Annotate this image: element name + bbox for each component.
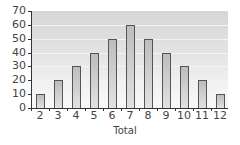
y-tick-label: 70 (0, 5, 26, 17)
x-tick-label: 8 (138, 110, 158, 122)
bar-9 (162, 53, 171, 109)
bar-12 (216, 94, 225, 109)
y-tick (28, 25, 31, 26)
x-tick-label: 5 (84, 110, 104, 122)
y-tick (28, 53, 31, 54)
x-tick-label: 11 (192, 110, 212, 122)
bar-chart: 010203040506070 23456789101112 Total (0, 0, 240, 145)
bar-8 (144, 39, 153, 109)
y-tick-label: 20 (0, 74, 26, 86)
x-tick-label: 4 (66, 110, 86, 122)
bar-5 (90, 53, 99, 109)
bar-3 (54, 80, 63, 109)
x-tick-label: 9 (156, 110, 176, 122)
x-tick-label: 2 (30, 110, 50, 122)
y-tick-label: 0 (0, 102, 26, 114)
x-axis-title: Total (100, 125, 150, 137)
bar-10 (180, 66, 189, 109)
y-tick-label: 30 (0, 60, 26, 72)
bar-6 (108, 39, 117, 109)
y-tick (28, 39, 31, 40)
bar-7 (126, 25, 135, 109)
y-tick-label: 50 (0, 33, 26, 45)
x-tick-label: 12 (210, 110, 230, 122)
bar-11 (198, 80, 207, 109)
bar-4 (72, 66, 81, 109)
x-tick-label: 6 (102, 110, 122, 122)
y-tick-label: 40 (0, 47, 26, 59)
x-tick-label: 10 (174, 110, 194, 122)
y-tick-label: 10 (0, 88, 26, 100)
y-tick (28, 11, 31, 12)
y-tick (28, 94, 31, 95)
bar-2 (36, 94, 45, 109)
x-tick (31, 108, 32, 111)
x-tick-label: 7 (120, 110, 140, 122)
x-tick-label: 3 (48, 110, 68, 122)
y-tick-label: 60 (0, 19, 26, 31)
y-tick (28, 80, 31, 81)
y-tick (28, 66, 31, 67)
y-axis (31, 11, 32, 109)
